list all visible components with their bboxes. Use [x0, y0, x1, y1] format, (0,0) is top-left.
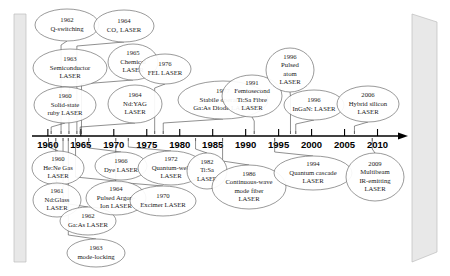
bubble-year-pulsed-atom-laser: 1996: [283, 53, 297, 60]
bubble-label-femtosecond-tisa-fibre-laser: Femtosecond: [234, 87, 270, 94]
bubble-label-semiconductor-laser: Semiconductor: [50, 64, 91, 71]
bubble-year-multibeam-ir-laser: 2009: [368, 160, 382, 167]
event-bubble-fel-laser[interactable]: 1976FEL LASER: [139, 54, 191, 84]
right-gray-bar: [412, 14, 437, 262]
event-bubble-semiconductor-laser[interactable]: 1963SemiconductorLASER: [33, 49, 107, 87]
bubble-label-co2-laser: CO₂ LASER: [107, 26, 142, 33]
timeline-canvas: 1960196519701975198019851990199520002005…: [0, 0, 450, 276]
year-axis: 1960196519701975198019851990199520002005…: [32, 129, 408, 150]
bubble-year-quantum-cascade-laser: 1994: [306, 160, 320, 167]
left-gray-bar: [14, 14, 26, 262]
axis-tick-label-1970: 1970: [103, 139, 124, 150]
bubble-label-femtosecond-tisa-fibre-laser: Ti:Sa Fibre: [237, 96, 267, 103]
bubble-label-solid-state-ruby-laser: Solid-state: [51, 101, 80, 108]
bubble-label-ndyag-laser: LASER: [124, 108, 146, 115]
event-leader-solid-state-ruby-laser: [51, 123, 65, 134]
bubble-label-cw-mode-fiber-laser: Continuous-wave: [225, 178, 272, 185]
bubble-label-hybrid-silicon-laser: LASER: [357, 108, 379, 115]
bubble-label-multibeam-ir-laser: Multibeam: [360, 168, 390, 175]
bubble-label-pulsed-argon-ion-laser: Ion LASER: [100, 202, 132, 209]
axis-tick-label-1990: 1990: [235, 139, 256, 150]
bubble-year-femtosecond-tisa-fibre-laser: 1991: [245, 79, 258, 86]
event-leader-femtosecond-tisa-fibre-laser: [252, 117, 254, 134]
axis-tick-label-2005: 2005: [334, 139, 356, 150]
bubble-year-tisa-laser: 1982: [201, 158, 214, 165]
bubble-label-solid-state-ruby-laser: ruby LASER: [47, 109, 83, 116]
bubble-year-solid-state-ruby-laser: 1960: [58, 92, 72, 99]
bubble-label-mode-locking: mode-locking: [77, 253, 115, 260]
event-leader-gaas-diode-laser: [163, 119, 223, 134]
bubble-label-ndglass-laser: Nd:Glass: [45, 196, 70, 203]
bubble-year-ndyag-laser: 1964: [128, 91, 142, 98]
bubble-label-hene-gas-laser: LASER: [47, 172, 69, 179]
bubble-year-dye-laser: 1966: [114, 157, 128, 164]
axis-arrowhead: [398, 133, 408, 140]
event-bubble-pulsed-atom-laser[interactable]: 1996PulsedatomLASER: [266, 48, 314, 92]
bubble-label-ndyag-laser: Nd:YAG: [123, 100, 147, 107]
bubble-label-q-switching: Q-switching: [50, 25, 84, 32]
bubble-year-chemical-laser: 1965: [126, 49, 140, 56]
bubble-label-pulsed-atom-laser: LASER: [279, 78, 301, 85]
event-bubble-ndyag-laser[interactable]: 1964Nd:YAGLASER: [108, 85, 162, 123]
event-bubble-quantum-cascade-laser[interactable]: 1994Quantum cascadeLASER: [274, 156, 352, 190]
axis-tick-label-1995: 1995: [268, 139, 290, 150]
bubble-year-ndglass-laser: 1961: [50, 187, 63, 194]
bubble-label-semiconductor-laser: LASER: [59, 72, 81, 79]
event-bubble-mode-locking[interactable]: 1963mode-locking: [67, 239, 125, 267]
event-bubble-hybrid-silicon-laser[interactable]: 2006Hybrid siliconLASER: [337, 86, 399, 122]
bubble-year-hybrid-silicon-laser: 2006: [361, 91, 375, 98]
bubble-label-quantum-cascade-laser: LASER: [302, 177, 324, 184]
bubble-label-hybrid-silicon-laser: Hybrid silicon: [349, 100, 388, 107]
bubble-year-pulsed-argon-ion-laser: 1964: [109, 185, 123, 192]
bubble-year-gaas-laser: 1962: [81, 212, 94, 219]
bubble-label-excimer-laser: Excimer LASER: [140, 201, 186, 208]
bubble-label-cw-mode-fiber-laser: LASER: [238, 195, 260, 202]
bubble-label-fel-laser: FEL LASER: [148, 69, 183, 76]
event-leader-ndyag-laser: [80, 123, 135, 134]
event-bubble-excimer-laser[interactable]: 1970Excimer LASER: [130, 186, 196, 216]
bubble-label-pulsed-argon-ion-laser: Pulsed Argon-: [97, 194, 135, 201]
bubble-label-multibeam-ir-laser: LASER: [364, 185, 386, 192]
bubble-label-quantum-well-laser: Quantum-well: [152, 164, 191, 171]
event-bubble-q-switching[interactable]: 1962Q-switching: [35, 9, 99, 41]
bubble-year-mode-locking: 1963: [89, 244, 103, 251]
event-bubble-multibeam-ir-laser[interactable]: 2009MultibeamIR-emittingLASER: [346, 153, 404, 201]
bubble-label-ndglass-laser: LASER: [46, 204, 68, 211]
axis-tick-label-2000: 2000: [301, 139, 322, 150]
bubble-label-hene-gas-laser: He:Ne Gas: [43, 164, 73, 171]
timeline-diagram: 1960196519701975198019851990199520002005…: [0, 0, 450, 276]
axis-tick-label-1980: 1980: [169, 139, 190, 150]
bubble-label-dye-laser: Dye LASER: [104, 166, 139, 173]
event-bubble-co2-laser[interactable]: 1964CO₂ LASER: [94, 10, 154, 42]
bubble-year-q-switching: 1962: [60, 16, 73, 23]
bubble-year-semiconductor-laser: 1963: [63, 55, 77, 62]
bubble-label-multibeam-ir-laser: IR-emitting: [359, 177, 391, 184]
bubble-label-femtosecond-tisa-fibre-laser: LASER: [241, 104, 263, 111]
event-bubble-solid-state-ruby-laser[interactable]: 1960Solid-stateruby LASER: [34, 87, 96, 123]
bubble-label-tisa-laser: Ti:Sa: [200, 166, 214, 173]
axis-tick-label-2010: 2010: [367, 139, 388, 150]
axis-tick-label-1985: 1985: [202, 139, 224, 150]
bubble-label-ingan-laser: InGaN: LASER: [293, 105, 336, 112]
bubble-year-co2-laser: 1964: [117, 17, 131, 24]
event-leader-hybrid-silicon-laser: [354, 122, 368, 134]
bubble-label-quantum-well-laser: LASER: [160, 172, 182, 179]
bubble-year-ingan-laser: 1996: [307, 96, 321, 103]
axis-tick-label-1960: 1960: [37, 139, 58, 150]
bubble-year-excimer-laser: 1970: [156, 192, 170, 199]
bubble-label-pulsed-atom-laser: atom: [283, 70, 297, 77]
event-bubble-hene-gas-laser[interactable]: 1960He:Ne GasLASER: [32, 151, 84, 185]
bubble-year-fel-laser: 1976: [158, 60, 172, 67]
bubble-year-hene-gas-laser: 1960: [51, 155, 65, 162]
event-bubble-ingan-laser[interactable]: 1996InGaN: LASER: [284, 90, 344, 120]
bubble-label-gaas-laser: Ga:As LASER: [68, 221, 108, 228]
bubble-year-quantum-well-laser: 1972: [164, 155, 177, 162]
bubble-year-cw-mode-fiber-laser: 1986: [242, 170, 256, 177]
bubble-label-quantum-cascade-laser: Quantum cascade: [289, 169, 336, 176]
bubble-label-cw-mode-fiber-laser: mode fiber: [234, 187, 264, 194]
bubble-label-pulsed-atom-laser: Pulsed: [281, 61, 299, 68]
